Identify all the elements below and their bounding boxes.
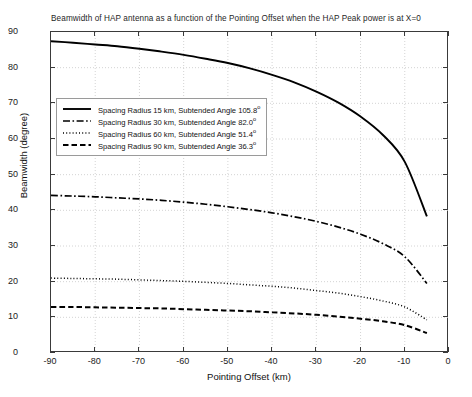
x-tick-mark xyxy=(448,31,449,36)
y-tick-mark xyxy=(50,67,55,68)
y-tick-mark xyxy=(443,209,448,210)
x-tick-label: -90 xyxy=(30,356,70,366)
x-tick-mark xyxy=(138,347,139,352)
x-tick-mark xyxy=(271,347,272,352)
y-tick-label: 90 xyxy=(0,26,18,36)
x-tick-mark xyxy=(227,347,228,352)
x-tick-mark xyxy=(94,347,95,352)
y-tick-mark xyxy=(443,352,448,353)
legend-line-swatch xyxy=(62,140,92,150)
y-tick-mark xyxy=(443,138,448,139)
y-tick-mark xyxy=(443,102,448,103)
y-tick-label: 20 xyxy=(0,276,18,286)
y-tick-mark xyxy=(443,245,448,246)
legend-line-swatch xyxy=(62,104,92,114)
plot-area xyxy=(50,31,448,352)
data-curves xyxy=(51,32,449,353)
chart-legend: Spacing Radius 15 km, Subtended Angle 10… xyxy=(56,98,267,156)
x-tick-label: 0 xyxy=(428,356,468,366)
x-tick-label: -30 xyxy=(295,356,335,366)
x-tick-mark xyxy=(448,347,449,352)
y-tick-mark xyxy=(443,67,448,68)
y-tick-label: 30 xyxy=(0,240,18,250)
x-tick-label: -10 xyxy=(384,356,424,366)
x-tick-mark xyxy=(404,347,405,352)
x-tick-mark xyxy=(94,31,95,36)
legend-line-swatch xyxy=(62,116,92,126)
legend-item: Spacing Radius 15 km, Subtended Angle 10… xyxy=(62,103,260,115)
y-tick-mark xyxy=(50,352,55,353)
degree-symbol: o xyxy=(253,116,256,122)
x-tick-mark xyxy=(404,31,405,36)
y-tick-label: 60 xyxy=(0,133,18,143)
legend-line-swatch xyxy=(62,128,92,138)
x-tick-mark xyxy=(50,31,51,36)
x-tick-mark xyxy=(138,31,139,36)
y-tick-mark xyxy=(443,174,448,175)
x-axis-label: Pointing Offset (km) xyxy=(50,371,448,382)
y-tick-label: 0 xyxy=(0,347,18,357)
y-tick-mark xyxy=(443,281,448,282)
x-tick-label: -20 xyxy=(340,356,380,366)
legend-item: Spacing Radius 90 km, Subtended Angle 36… xyxy=(62,139,260,151)
x-tick-mark xyxy=(271,31,272,36)
legend-item: Spacing Radius 30 km, Subtended Angle 82… xyxy=(62,115,260,127)
x-tick-label: -40 xyxy=(251,356,291,366)
x-tick-mark xyxy=(183,347,184,352)
y-tick-mark xyxy=(50,209,55,210)
chart-page: Beamwidth of HAP antenna as a function o… xyxy=(0,0,472,397)
x-tick-mark xyxy=(183,31,184,36)
degree-symbol: o xyxy=(253,128,256,134)
y-tick-label: 70 xyxy=(0,97,18,107)
chart-title: Beamwidth of HAP antenna as a function o… xyxy=(0,14,472,23)
y-tick-label: 40 xyxy=(0,204,18,214)
y-tick-mark xyxy=(50,245,55,246)
y-tick-mark xyxy=(50,174,55,175)
y-tick-mark xyxy=(50,316,55,317)
x-tick-mark xyxy=(50,347,51,352)
y-tick-label: 50 xyxy=(0,169,18,179)
degree-symbol: o xyxy=(253,140,256,146)
legend-item: Spacing Radius 60 km, Subtended Angle 51… xyxy=(62,127,260,139)
x-tick-label: -70 xyxy=(118,356,158,366)
y-tick-mark xyxy=(443,316,448,317)
x-tick-mark xyxy=(315,31,316,36)
legend-label: Spacing Radius 90 km, Subtended Angle 36… xyxy=(98,138,256,152)
x-tick-label: -50 xyxy=(207,356,247,366)
x-tick-label: -80 xyxy=(74,356,114,366)
x-tick-mark xyxy=(315,347,316,352)
y-tick-label: 80 xyxy=(0,62,18,72)
x-tick-mark xyxy=(227,31,228,36)
degree-symbol: o xyxy=(257,104,260,110)
y-tick-mark xyxy=(50,281,55,282)
x-tick-mark xyxy=(360,347,361,352)
x-tick-label: -60 xyxy=(163,356,203,366)
x-tick-mark xyxy=(360,31,361,36)
y-tick-mark xyxy=(50,102,55,103)
y-tick-mark xyxy=(50,138,55,139)
y-axis-label: Beamwidth (degree) xyxy=(18,71,29,241)
y-tick-label: 10 xyxy=(0,311,18,321)
